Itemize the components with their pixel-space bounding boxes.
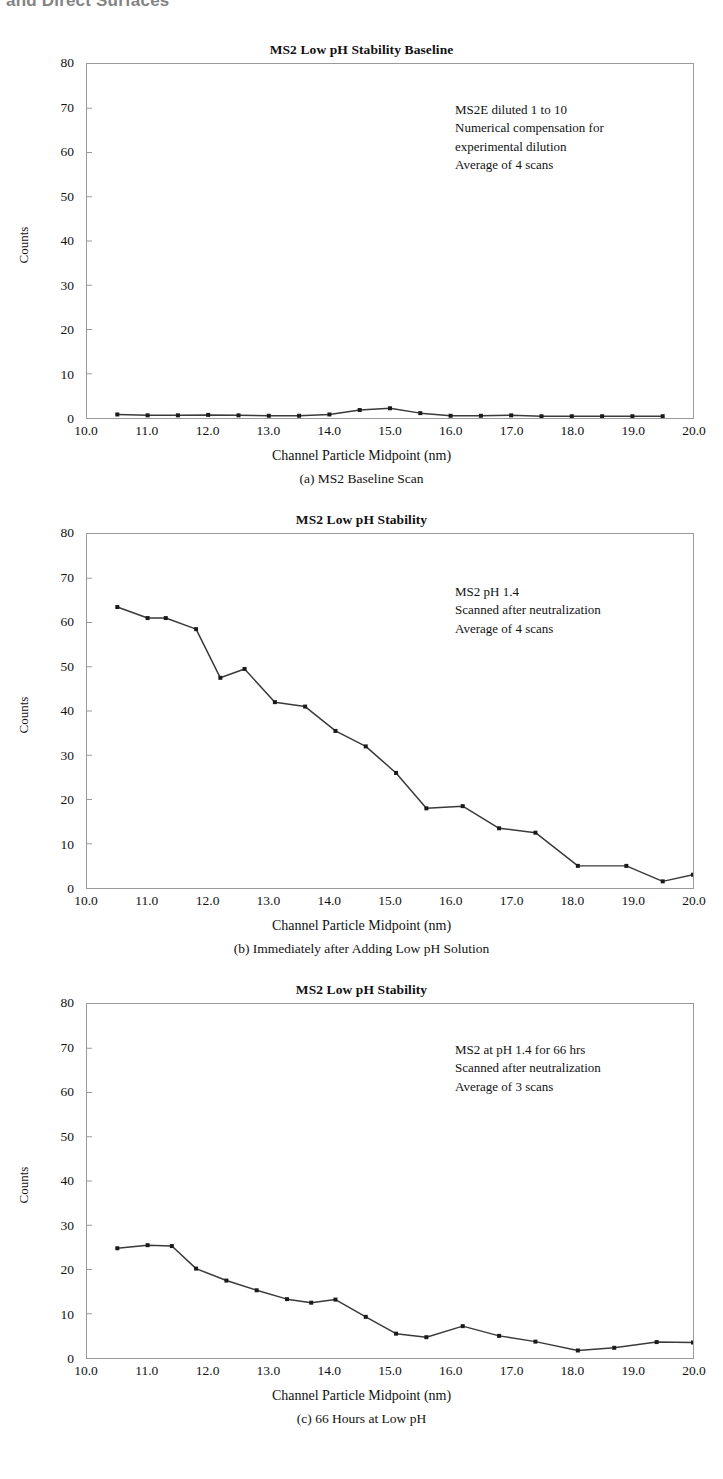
data-point-marker — [303, 705, 307, 709]
plot-row-b: Counts 01020304050607080 10.011.012.013.… — [0, 533, 723, 897]
y-tick-label: 30 — [61, 1218, 75, 1234]
y-tick-label: 70 — [61, 570, 75, 586]
data-point-marker — [576, 1348, 580, 1352]
data-point-marker — [461, 804, 465, 808]
x-tick-label: 10.0 — [74, 423, 98, 439]
data-point-marker — [394, 771, 398, 775]
annotation-b: MS2 pH 1.4 Scanned after neutralization … — [455, 583, 601, 638]
data-point-marker — [418, 411, 422, 415]
x-tick-label: 16.0 — [439, 1363, 463, 1379]
x-tick-label: 12.0 — [196, 423, 220, 439]
y-axis-label-c: Counts — [16, 1167, 32, 1204]
data-point-marker — [327, 412, 331, 416]
data-point-marker — [394, 1332, 398, 1336]
x-axis-ticks-b: 10.011.012.013.014.015.016.017.018.019.0… — [86, 891, 694, 913]
data-point-marker — [533, 831, 537, 835]
data-point-marker — [267, 414, 271, 418]
data-point-marker — [364, 744, 368, 748]
line-chart-c — [87, 1004, 693, 1358]
x-tick-label: 18.0 — [561, 423, 585, 439]
x-tick-label: 10.0 — [74, 893, 98, 909]
x-axis-label-b: Channel Particle Midpoint (nm) — [0, 918, 723, 934]
data-point-marker — [285, 1297, 289, 1301]
y-axis-ticks-c: 01020304050607080 — [38, 1003, 80, 1359]
data-point-marker — [388, 406, 392, 410]
x-tick-label: 20.0 — [682, 423, 706, 439]
annotation-c: MS2 at pH 1.4 for 66 hrs Scanned after n… — [455, 1041, 601, 1096]
data-point-marker — [533, 1340, 537, 1344]
data-point-marker — [576, 864, 580, 868]
y-tick-label: 30 — [61, 748, 75, 764]
data-point-marker — [600, 414, 604, 418]
y-tick-label: 30 — [61, 278, 75, 294]
x-tick-label: 13.0 — [257, 423, 281, 439]
plot-row-a: Counts 01020304050607080 10.011.012.013.… — [0, 63, 723, 427]
y-tick-label: 0 — [67, 1351, 74, 1367]
data-point-marker — [237, 413, 241, 417]
y-axis-label-a: Counts — [16, 227, 32, 264]
data-point-marker — [224, 1279, 228, 1283]
x-tick-label: 18.0 — [561, 893, 585, 909]
x-tick-label: 17.0 — [500, 893, 524, 909]
caption-b: (b) Immediately after Adding Low pH Solu… — [0, 941, 723, 957]
y-tick-label: 0 — [67, 881, 74, 897]
figure-panel-a: MS2 Low pH Stability Baseline Counts 010… — [0, 42, 723, 487]
data-point-marker — [691, 873, 693, 877]
data-point-marker — [461, 1324, 465, 1328]
y-tick-label: 10 — [61, 837, 75, 853]
x-tick-label: 18.0 — [561, 1363, 585, 1379]
figure-panel-c: MS2 Low pH Stability Counts 010203040506… — [0, 982, 723, 1427]
y-tick-label: 40 — [61, 703, 75, 719]
y-tick-label: 80 — [61, 995, 75, 1011]
x-axis-ticks-c: 10.011.012.013.014.015.016.017.018.019.0… — [86, 1361, 694, 1383]
x-tick-label: 16.0 — [439, 423, 463, 439]
caption-a: (a) MS2 Baseline Scan — [0, 471, 723, 487]
data-point-marker — [661, 879, 665, 883]
chart-title-c: MS2 Low pH Stability — [0, 982, 723, 998]
caption-c: (c) 66 Hours at Low pH — [0, 1411, 723, 1427]
data-point-marker — [449, 414, 453, 418]
y-tick-label: 80 — [61, 525, 75, 541]
x-axis-label-c: Channel Particle Midpoint (nm) — [0, 1388, 723, 1404]
data-point-marker — [164, 616, 168, 620]
y-tick-label: 50 — [61, 189, 75, 205]
chart-title-a: MS2 Low pH Stability Baseline — [0, 42, 723, 58]
x-tick-label: 20.0 — [682, 893, 706, 909]
annotation-a: MS2E diluted 1 to 10 Numerical compensat… — [455, 101, 604, 175]
y-axis-ticks-a: 01020304050607080 — [38, 63, 80, 419]
data-point-marker — [509, 413, 513, 417]
data-point-marker — [194, 1267, 198, 1271]
y-tick-label: 20 — [61, 322, 75, 338]
data-point-marker — [364, 1315, 368, 1319]
y-tick-label: 10 — [61, 1307, 75, 1323]
y-tick-label: 0 — [67, 411, 74, 427]
x-tick-label: 14.0 — [317, 1363, 341, 1379]
data-point-marker — [358, 408, 362, 412]
data-point-marker — [170, 1244, 174, 1248]
x-tick-label: 15.0 — [378, 1363, 402, 1379]
data-point-marker — [424, 1335, 428, 1339]
x-tick-label: 19.0 — [621, 1363, 645, 1379]
y-tick-label: 20 — [61, 1262, 75, 1278]
plot-row-c: Counts 01020304050607080 10.011.012.013.… — [0, 1003, 723, 1367]
data-point-marker — [146, 413, 150, 417]
data-point-marker — [309, 1301, 313, 1305]
x-tick-label: 12.0 — [196, 1363, 220, 1379]
y-axis-ticks-b: 01020304050607080 — [38, 533, 80, 889]
data-point-marker — [115, 605, 119, 609]
x-tick-label: 15.0 — [378, 423, 402, 439]
plot-area-b — [86, 533, 694, 889]
data-point-marker — [479, 414, 483, 418]
x-tick-label: 16.0 — [439, 893, 463, 909]
x-tick-label: 17.0 — [500, 1363, 524, 1379]
data-point-marker — [218, 676, 222, 680]
y-tick-label: 50 — [61, 659, 75, 675]
x-tick-label: 19.0 — [621, 893, 645, 909]
x-tick-label: 13.0 — [257, 1363, 281, 1379]
y-tick-label: 10 — [61, 367, 75, 383]
x-tick-label: 14.0 — [317, 893, 341, 909]
y-tick-label: 60 — [61, 614, 75, 630]
data-point-marker — [497, 826, 501, 830]
data-point-marker — [424, 806, 428, 810]
y-axis-label-b: Counts — [16, 697, 32, 734]
